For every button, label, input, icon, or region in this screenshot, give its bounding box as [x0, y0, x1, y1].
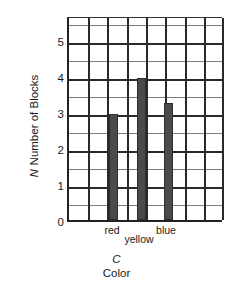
y-axis-label: Number of Blocks — [28, 75, 41, 166]
x-axis-tick-labels: red yellow blue — [0, 223, 233, 245]
y-tick-1: 1 — [58, 181, 64, 192]
y-axis-tick-labels: 0 1 2 3 4 5 — [50, 17, 64, 222]
bar-red — [109, 114, 118, 220]
y-tick-3: 3 — [58, 109, 64, 120]
x-axis-title: C Color — [0, 252, 233, 280]
gridline-v — [185, 18, 187, 220]
y-tick-5: 5 — [58, 37, 64, 48]
x-axis-symbol: C — [0, 252, 233, 266]
bar-chart: N Number of Blocks 0 1 2 3 4 5 — [0, 0, 233, 286]
y-tick-4: 4 — [58, 73, 64, 84]
x-tick-red: red — [104, 225, 119, 236]
gridline-v — [222, 18, 224, 220]
gridline-v — [127, 18, 129, 220]
x-tick-blue: blue — [156, 225, 176, 236]
gridline-v — [88, 18, 90, 220]
gridline-v — [146, 18, 148, 220]
bar-blue — [164, 103, 173, 220]
plot-area — [67, 17, 222, 222]
y-axis-symbol: N — [28, 165, 40, 177]
y-axis-title: N Number of Blocks — [17, 52, 51, 200]
gridline-v — [204, 18, 206, 220]
y-tick-2: 2 — [58, 145, 64, 156]
bar-yellow — [137, 78, 146, 220]
x-axis-label: Color — [0, 266, 233, 280]
x-tick-yellow: yellow — [124, 234, 153, 245]
